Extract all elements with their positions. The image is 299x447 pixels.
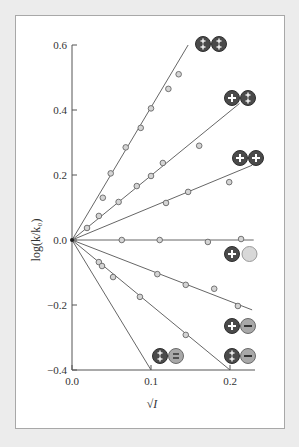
data-point [148,173,154,179]
data-point [96,213,102,219]
x-axis-title: √I [147,397,159,411]
data-point [123,145,129,151]
ion-icon [169,349,184,364]
data-point [116,199,122,205]
x-tick-label: 0.0 [65,375,79,387]
origin-point [70,238,74,242]
x-tick-label: 0.2 [223,375,237,387]
y-tick-label: 0.6 [53,39,67,51]
data-point [176,71,182,77]
data-point [163,200,169,206]
x-tick-label: 0.1 [144,375,158,387]
data-point [138,125,144,131]
data-point [108,171,114,177]
data-point [226,179,232,185]
data-point [166,86,172,92]
data-point [157,237,163,243]
data-point [160,160,166,166]
data-point [211,286,217,292]
data-point [137,294,143,300]
y-tick-label: −0.2 [47,299,67,311]
data-point [100,195,106,201]
chart-svg: 0.60.40.20.0−0.2−0.40.00.10.2√Ilog(k/k₀) [0,0,299,447]
data-point [134,183,140,189]
data-point [183,332,189,338]
fit-line [72,104,239,241]
y-tick-label: 0.0 [53,234,67,246]
fit-line [72,240,151,370]
data-point [148,106,154,112]
data-point [99,263,105,269]
data-point [110,274,116,280]
data-point [183,282,189,288]
fit-line [72,45,188,240]
ion-icon [242,247,257,262]
data-point [205,239,211,245]
data-point [119,237,125,243]
data-point [238,236,244,242]
data-point [235,303,241,309]
fit-line [72,240,230,370]
fit-line [72,165,252,240]
data-point [155,271,161,277]
y-tick-label: 0.4 [53,104,67,116]
data-point [84,225,90,231]
y-tick-label: 0.2 [53,169,67,181]
data-point [185,189,191,195]
data-point [196,143,202,149]
y-axis-title: log(k/k₀) [29,219,43,262]
